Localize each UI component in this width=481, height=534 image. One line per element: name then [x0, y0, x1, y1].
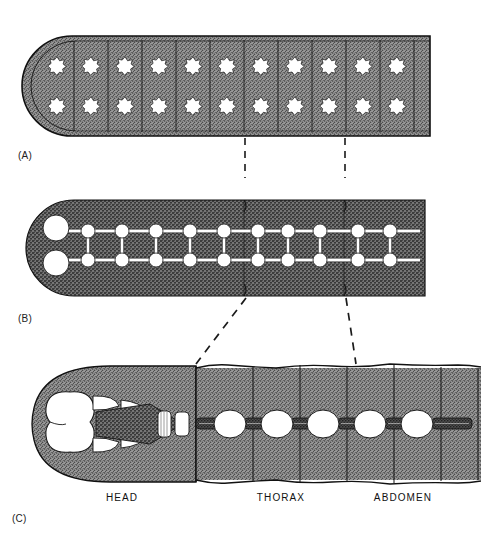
panel-label-a: (A) [18, 150, 32, 161]
connector-b-to-c [196, 298, 356, 364]
trunk-bottom-edge-c [196, 480, 481, 484]
connector-a-to-b [245, 138, 345, 178]
panel-c-fused-insect-cns [32, 364, 481, 484]
panel-a-primitive-ganglia [22, 36, 430, 136]
region-label-thorax: THORAX [221, 492, 341, 503]
region-label-head: HEAD [62, 492, 182, 503]
trunk-top-edge-c [196, 364, 481, 368]
panel-b-ladder-nerve-cord [26, 200, 425, 296]
figure-canvas: 1 2 3 4 5 6 7 8 9 10 11 1 2 3 4 5 6 7 8 … [0, 0, 481, 534]
region-label-abdomen: ABDOMEN [343, 492, 463, 503]
brain-c [46, 392, 94, 452]
panel-label-c: (C) [12, 513, 26, 524]
panel-label-b: (B) [18, 313, 32, 324]
nervous-system-evolution-diagram [0, 0, 481, 534]
